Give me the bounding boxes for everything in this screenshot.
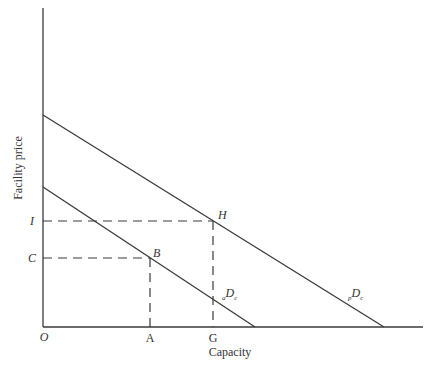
x-tick-A: A bbox=[146, 331, 155, 345]
origin-label: O bbox=[40, 330, 49, 344]
demand-diagram: I C O A G H B aDc pDc Capacity Facility … bbox=[0, 0, 437, 372]
y-axis-title: Facility price bbox=[11, 136, 25, 200]
curve-label-aDc: aDc bbox=[222, 286, 238, 302]
y-tick-I: I bbox=[29, 214, 35, 228]
x-tick-G: G bbox=[209, 331, 218, 345]
x-axis-title: Capacity bbox=[209, 345, 252, 359]
curve-label-pDc: pDc bbox=[347, 286, 364, 302]
point-H: H bbox=[217, 208, 228, 222]
point-B: B bbox=[153, 246, 161, 260]
y-tick-C: C bbox=[28, 251, 37, 265]
